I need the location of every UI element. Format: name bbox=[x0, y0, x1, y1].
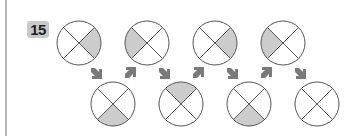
arrow-up-right-icon bbox=[125, 67, 136, 78]
pattern-sequence-figure bbox=[0, 0, 358, 136]
pattern-circle-top-1 bbox=[57, 21, 101, 65]
arrow-down-right-icon bbox=[295, 68, 306, 79]
pattern-circle-bottom-1 bbox=[91, 82, 135, 126]
arrow-up-right-icon bbox=[193, 67, 204, 78]
pattern-circle-top-2 bbox=[125, 21, 169, 65]
pattern-circle-top-4 bbox=[261, 21, 305, 65]
arrow-down-right-icon bbox=[227, 68, 238, 79]
arrow-down-right-icon bbox=[91, 68, 102, 79]
arrow-up-right-icon bbox=[261, 67, 272, 78]
answer-blank-circle[interactable] bbox=[295, 82, 339, 126]
pattern-circle-bottom-3 bbox=[227, 82, 271, 126]
pattern-circle-bottom-2 bbox=[159, 82, 203, 126]
arrow-down-right-icon bbox=[159, 68, 170, 79]
pattern-circle-top-3 bbox=[193, 21, 237, 65]
